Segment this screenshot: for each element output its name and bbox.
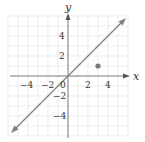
x-axis-label: x bbox=[133, 70, 140, 83]
x-tick-label: 2 bbox=[85, 80, 91, 90]
x-tick-label: −2 bbox=[41, 80, 54, 90]
y-axis-label: y bbox=[64, 1, 72, 14]
y-tick-label: −4 bbox=[53, 111, 67, 121]
x-tick-label: 4 bbox=[105, 80, 111, 90]
origin-label: 0 bbox=[60, 80, 66, 90]
coordinate-plane: x y −4 −2 0 2 4 4 2 −2 −4 bbox=[0, 0, 145, 142]
y-tick-label: 4 bbox=[59, 31, 65, 41]
x-axis-arrow-icon bbox=[123, 74, 130, 79]
x-tick-label: −4 bbox=[20, 80, 34, 90]
y-tick-label: 2 bbox=[59, 51, 65, 61]
y-axis-arrow-icon bbox=[66, 13, 71, 20]
y-tick-label: −2 bbox=[53, 91, 66, 101]
data-point bbox=[95, 63, 100, 68]
